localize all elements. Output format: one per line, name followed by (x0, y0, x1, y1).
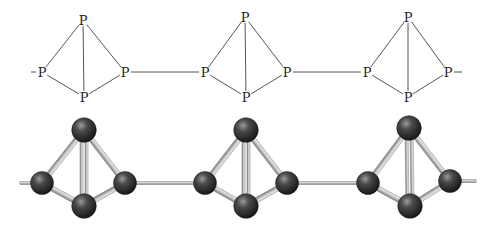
p-p-bond (249, 22, 284, 67)
phosphorus-atom-label: P (79, 13, 88, 28)
phosphorus-atom-label: P (363, 65, 372, 80)
phosphorus-atom-label: P (80, 90, 89, 105)
phosphorus-atom-sphere (72, 194, 97, 219)
phosphorus-atom-sphere (398, 194, 423, 219)
p-p-bond (412, 22, 445, 67)
phosphorus-atom-label: P (201, 65, 210, 80)
phosphorus-atom-sphere (357, 172, 380, 195)
phosphorus-atom-sphere (397, 116, 422, 141)
phosphorus-atom-sphere (72, 118, 97, 143)
structural-formula: PPPPPPPPPPPP (31, 10, 462, 105)
p-p-bond (251, 75, 282, 94)
p-p-bond (87, 25, 121, 68)
phosphorus-atom-label: P (121, 65, 130, 80)
p-p-bond (372, 75, 403, 94)
phosphorus-atom-sphere (31, 172, 54, 195)
p-p-bond (413, 75, 443, 94)
p-p-bond (371, 22, 405, 67)
p-p-bond (47, 75, 79, 94)
phosphorus-atom-label: P (242, 90, 251, 105)
bond-stick (287, 182, 368, 185)
phosphorus-atom-sphere (276, 172, 299, 195)
p-p-bond (83, 26, 84, 91)
p-p-bond (210, 75, 241, 94)
phosphorus-atom-label: P (38, 65, 47, 80)
p-p-bond (209, 22, 242, 67)
phosphorus-atom-label: P (241, 10, 250, 25)
phosphorus-atom-label: P (404, 10, 413, 25)
bond-stick (125, 182, 205, 185)
phosphorus-atom-label: P (404, 90, 413, 105)
phosphorus-atom-sphere (114, 172, 137, 195)
p-p-bond (46, 25, 80, 68)
p-p-bond (89, 75, 120, 94)
phosphorus-chain-diagram: PPPPPPPPPPPP (0, 0, 494, 226)
phosphorus-atom-label: P (444, 65, 453, 80)
ball-and-stick-model (20, 116, 476, 219)
phosphorus-atom-sphere (234, 194, 259, 219)
phosphorus-atom-sphere (234, 118, 259, 143)
p-p-bond (245, 23, 246, 91)
phosphorus-atom-sphere (439, 170, 462, 193)
phosphorus-atom-sphere (194, 172, 217, 195)
phosphorus-atom-label: P (283, 65, 292, 80)
